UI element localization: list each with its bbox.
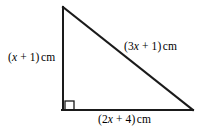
label-base-unit: cm xyxy=(137,113,151,125)
label-hypotenuse-rest: + 1) xyxy=(139,40,161,52)
label-base-open: (2 xyxy=(98,113,108,125)
right-angle-marker-icon xyxy=(65,101,74,110)
triangle-drawing xyxy=(0,0,201,130)
label-base-side: (2x + 4)cm xyxy=(98,114,151,126)
label-hypotenuse-unit: cm xyxy=(163,40,177,52)
right-triangle-figure: (x + 1)cm (3x + 1)cm (2x + 4)cm xyxy=(0,0,201,130)
label-vertical-unit: cm xyxy=(41,51,55,63)
label-base-rest: + 4) xyxy=(113,113,135,125)
label-hypotenuse: (3x + 1)cm xyxy=(124,41,177,53)
label-hypotenuse-open: (3 xyxy=(124,40,134,52)
label-vertical-side: (x + 1)cm xyxy=(8,52,55,64)
label-vertical-rest: + 1) xyxy=(17,51,39,63)
triangle-hypotenuse-side xyxy=(63,7,193,110)
